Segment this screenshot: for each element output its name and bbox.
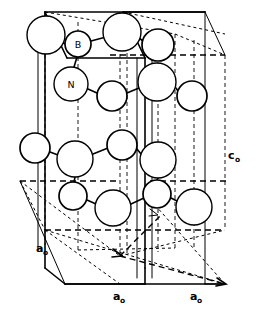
bond-a13-a14 [87, 200, 96, 204]
atoms-group: B N [20, 13, 212, 226]
arrow-mid-right [149, 209, 158, 216]
crystal-structure-figure: B N a o a o a o c o [0, 0, 261, 310]
axis-label-c0-right-base: c [228, 149, 235, 162]
base-diag-7 [120, 216, 160, 256]
atom-label-boron: B [75, 39, 82, 50]
axis-label-a0-left: a o [36, 242, 48, 257]
axis-label-a0-left-sub: o [43, 248, 48, 257]
top-right-slant [205, 12, 225, 55]
base-diag-1 [45, 230, 225, 284]
atom-circle [95, 190, 131, 226]
base-diag-5 [78, 248, 175, 250]
atom-circle [143, 180, 171, 208]
atom-circle [27, 16, 65, 54]
bond-a15-a16 [171, 198, 177, 201]
top-back-diag-right [175, 34, 225, 55]
atom-circle [59, 182, 87, 210]
base-diag-3 [120, 256, 225, 284]
bond-a10-a11 [93, 148, 108, 154]
atom-circle [107, 130, 137, 160]
axis-label-c0-right-sub: o [235, 155, 240, 164]
figure-canvas: B N a o a o a o c o [0, 0, 261, 310]
bonds-group [50, 37, 178, 204]
atom-circle [142, 29, 174, 61]
base-diag-8 [45, 230, 120, 284]
atom-circle [138, 63, 176, 101]
bond-a5-a6 [88, 89, 97, 93]
bond-a11-a12 [137, 149, 141, 154]
atom-circle [57, 141, 93, 177]
bond-a9-a10 [50, 152, 58, 155]
axis-label-a0-bottom: a o [113, 290, 125, 305]
atom-label-nitrogen: N [67, 79, 74, 90]
atom-circle [176, 189, 212, 225]
atom-circle [103, 13, 141, 51]
base-diag-2 [120, 230, 225, 256]
atom-circle [140, 142, 176, 178]
axis-label-a0-right: a o [190, 290, 202, 305]
axis-label-c0-right: c o [228, 149, 240, 164]
axis-label-a0-bottom-sub: o [120, 296, 125, 305]
atom-circle [20, 133, 50, 163]
atom-circle [177, 81, 207, 111]
atom-circle [97, 81, 127, 111]
axis-label-a0-right-sub: o [197, 296, 202, 305]
